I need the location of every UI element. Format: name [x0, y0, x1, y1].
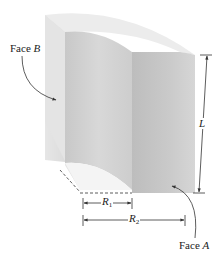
cylinder-drawing — [0, 0, 222, 262]
face-a-var: A — [203, 239, 210, 251]
hollow-cylinder-diagram: Face B Face A L R1 R2 — [0, 0, 222, 262]
face-b-var: B — [34, 42, 41, 54]
face-b-label: Face B — [10, 43, 40, 54]
r2-var: R — [129, 212, 136, 224]
face-a-text: Face — [179, 239, 203, 251]
r1-var: R — [102, 195, 109, 207]
length-label: L — [198, 118, 206, 129]
face-a-surface — [132, 52, 195, 193]
r1-sub: 1 — [109, 201, 113, 209]
r2-label: R2 — [128, 213, 140, 226]
r2-sub: 2 — [136, 218, 140, 226]
face-a-label-text: Face A — [179, 240, 209, 251]
face-a-leader — [172, 186, 196, 238]
face-b-text: Face — [10, 42, 34, 54]
length-var: L — [199, 117, 205, 129]
r1-label: R1 — [101, 196, 113, 209]
